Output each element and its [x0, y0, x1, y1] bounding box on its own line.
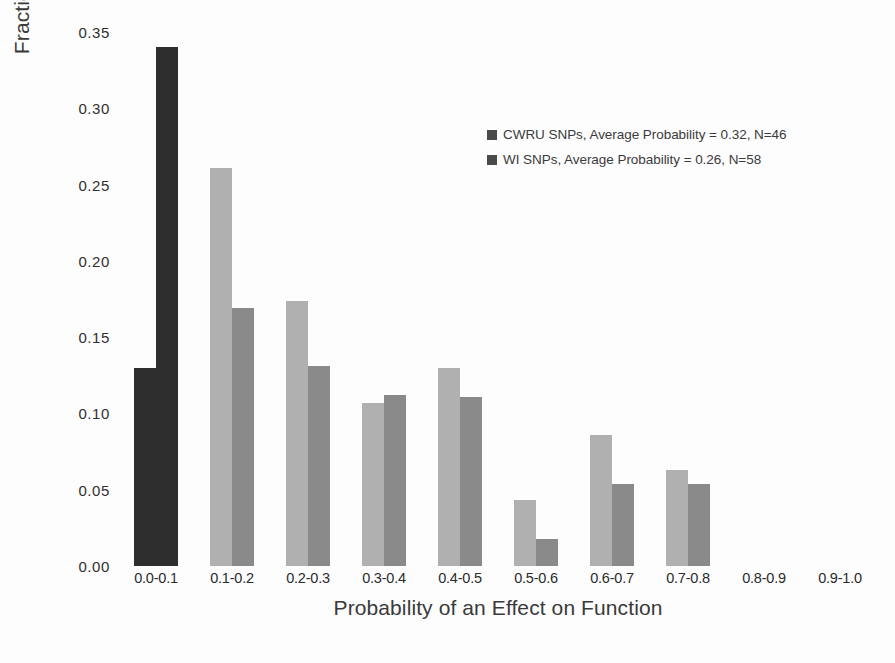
y-tick-label: 0.10 [48, 405, 110, 422]
legend-entry: CWRU SNPs, Average Probability = 0.32, N… [487, 122, 817, 147]
bar-wi-snps [232, 308, 254, 566]
x-axis-title: Probability of an Effect on Function [118, 596, 878, 620]
bar-group [210, 32, 255, 566]
bar-wi-snps [460, 397, 482, 566]
bar-wi-snps [156, 47, 178, 566]
x-tick-label: 0.2-0.3 [270, 570, 346, 586]
x-axis-tick-labels: 0.0-0.10.1-0.20.2-0.30.3-0.40.4-0.50.5-0… [118, 570, 878, 594]
legend-swatch-icon [487, 130, 497, 140]
bar-cwru-snps [210, 168, 232, 566]
x-tick-label: 0.0-0.1 [118, 570, 194, 586]
x-tick-label: 0.7-0.8 [650, 570, 726, 586]
x-tick-label: 0.3-0.4 [346, 570, 422, 586]
bar-wi-snps [308, 366, 330, 566]
bar-group [514, 32, 559, 566]
bar-cwru-snps [134, 368, 156, 566]
bar-wi-snps [612, 484, 634, 566]
bar-wi-snps [536, 539, 558, 566]
y-axis-tick-labels: 0.000.050.100.150.200.250.300.35 [48, 0, 110, 663]
bar-group [818, 32, 863, 566]
x-tick-label: 0.1-0.2 [194, 570, 270, 586]
y-axis-title: Fraction Modeled nsSNPs [4, 0, 40, 141]
bar-group [362, 32, 407, 566]
bar-group [134, 32, 179, 566]
bar-cwru-snps [666, 470, 688, 566]
bar-wi-snps [688, 484, 710, 566]
y-tick-label: 0.30 [48, 100, 110, 117]
y-tick-label: 0.00 [48, 558, 110, 575]
y-tick-label: 0.35 [48, 24, 110, 41]
y-tick-label: 0.15 [48, 329, 110, 346]
bar-group [286, 32, 331, 566]
bar-group [666, 32, 711, 566]
bar-group [742, 32, 787, 566]
x-tick-label: 0.9-1.0 [802, 570, 878, 586]
chart-legend: CWRU SNPs, Average Probability = 0.32, N… [487, 122, 817, 172]
legend-entry: WI SNPs, Average Probability = 0.26, N=5… [487, 147, 817, 172]
legend-swatch-icon [487, 155, 497, 165]
x-tick-label: 0.5-0.6 [498, 570, 574, 586]
x-tick-label: 0.8-0.9 [726, 570, 802, 586]
bar-cwru-snps [514, 500, 536, 566]
figure-canvas: Fraction Modeled nsSNPs 0.000.050.100.15… [0, 0, 895, 663]
y-tick-label: 0.05 [48, 481, 110, 498]
x-tick-label: 0.4-0.5 [422, 570, 498, 586]
x-tick-label: 0.6-0.7 [574, 570, 650, 586]
bar-cwru-snps [590, 435, 612, 566]
bar-cwru-snps [286, 301, 308, 566]
bar-wi-snps [384, 395, 406, 566]
y-tick-label: 0.25 [48, 176, 110, 193]
bar-group [590, 32, 635, 566]
legend-label: CWRU SNPs, Average Probability = 0.32, N… [503, 127, 787, 142]
bar-group [438, 32, 483, 566]
y-tick-label: 0.20 [48, 252, 110, 269]
plot-area [118, 32, 878, 566]
bar-cwru-snps [362, 403, 384, 566]
legend-label: WI SNPs, Average Probability = 0.26, N=5… [503, 152, 761, 167]
bar-cwru-snps [438, 368, 460, 566]
